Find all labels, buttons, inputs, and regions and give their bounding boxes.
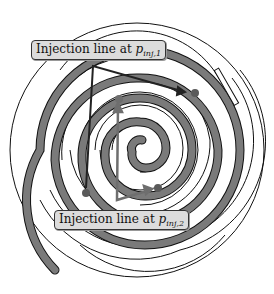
label-text: Injection line at xyxy=(59,212,159,226)
injection-line-2-label: Injection line at pinj,2 xyxy=(54,210,189,230)
injection-port-1b xyxy=(191,89,199,97)
injection-port-2b xyxy=(154,184,162,192)
label-subscript: inj,1 xyxy=(143,49,161,58)
housing-outer-circle xyxy=(10,23,264,277)
injection-port-1a xyxy=(82,189,90,197)
label-text: Injection line at xyxy=(36,42,136,56)
injection-port-2a xyxy=(115,95,123,103)
injection-line-1-label: Injection line at pinj,1 xyxy=(31,40,166,60)
fixed-scroll-outlines xyxy=(40,31,266,272)
label-subscript: inj,2 xyxy=(166,219,184,228)
